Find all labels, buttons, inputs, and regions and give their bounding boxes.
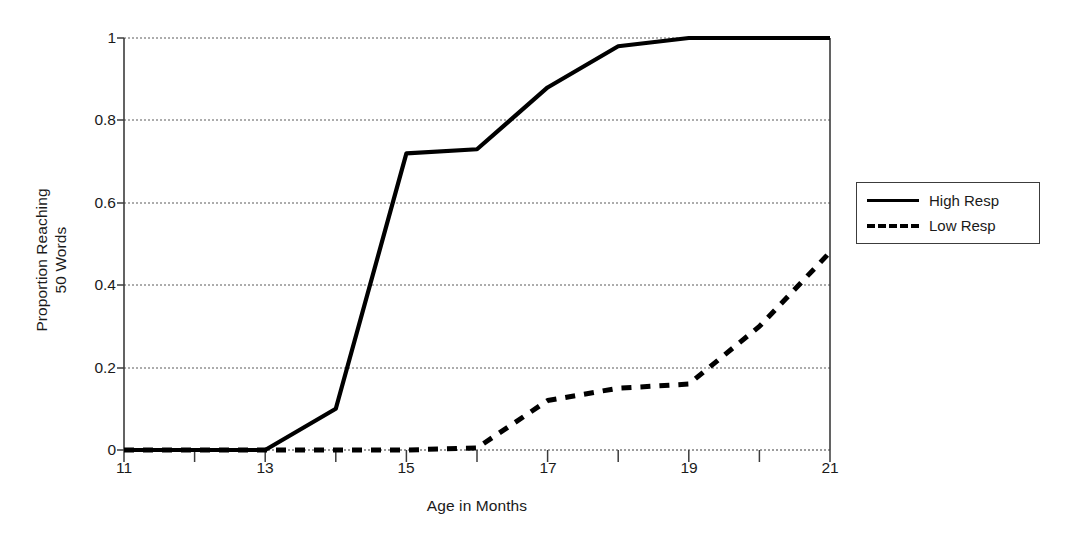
legend-label-low-resp: Low Resp [929, 218, 996, 233]
x-tick-label-17: 17 [518, 460, 578, 476]
y-tick-label-1: 1 [76, 30, 116, 46]
series-line-low-resp [124, 252, 830, 450]
y-axis-title-line2: 50 Words [52, 227, 69, 294]
y-axis-title-line1: Proportion Reaching [33, 188, 50, 331]
legend-swatch-solid-line-icon [867, 195, 919, 205]
x-tick-label-21: 21 [800, 460, 860, 476]
axis-lines [124, 38, 830, 450]
x-tick-label-13: 13 [235, 460, 295, 476]
series-line-high-resp [124, 38, 830, 450]
x-tick-label-11: 11 [94, 460, 154, 476]
legend-item-high-resp: High Resp [867, 190, 999, 210]
chart-legend: High Resp Low Resp [856, 182, 1040, 244]
y-axis-title: Proportion Reaching 50 Words [32, 188, 70, 331]
legend-label-high-resp: High Resp [929, 193, 999, 208]
x-axis-title: Age in Months [124, 497, 830, 515]
y-tick-marks [117, 38, 124, 450]
x-tick-label-15: 15 [376, 460, 436, 476]
x-tick-label-19: 19 [659, 460, 719, 476]
legend-swatch-dashed-line-icon [867, 220, 919, 230]
y-axis-title-wrapper: Proportion Reaching 50 Words [16, 150, 86, 370]
series-group [124, 38, 830, 450]
gridlines-horizontal [124, 38, 830, 368]
y-tick-label-0: 0 [76, 442, 116, 458]
legend-item-low-resp: Low Resp [867, 215, 996, 235]
chart-figure: 1 0.8 0.6 0.4 0.2 0 11 13 15 17 19 21 Pr… [0, 0, 1073, 541]
y-tick-label-0.8: 0.8 [76, 112, 116, 128]
